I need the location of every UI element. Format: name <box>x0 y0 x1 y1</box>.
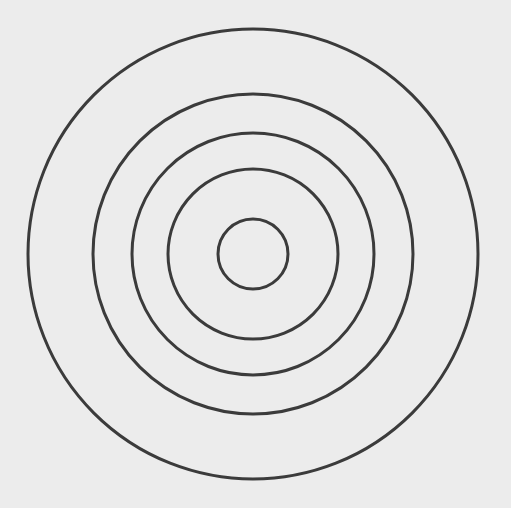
image-canvas <box>0 0 511 508</box>
concentric-circles-figure <box>0 0 511 508</box>
background-rect <box>0 0 511 508</box>
